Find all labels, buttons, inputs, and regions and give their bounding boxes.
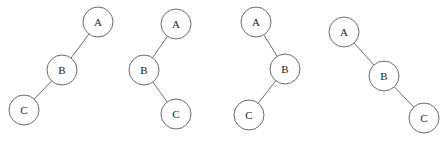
node-b: B <box>129 55 159 85</box>
node-a: A <box>161 9 191 39</box>
edge-a-b <box>354 43 374 65</box>
node-label: A <box>252 16 260 28</box>
edge-b-c <box>394 87 413 107</box>
nodes-layer: ABCABCABCABC <box>9 7 439 133</box>
edge-b-c <box>258 81 276 103</box>
edge-b-c <box>34 81 51 99</box>
node-label: C <box>20 104 27 116</box>
node-label: B <box>140 64 147 76</box>
node-label: A <box>172 18 180 30</box>
node-c: C <box>161 99 191 129</box>
node-label: B <box>58 64 65 76</box>
node-c: C <box>234 100 264 130</box>
edge-b-c <box>153 82 167 102</box>
node-c: C <box>409 103 439 133</box>
edge-a-b <box>153 36 168 57</box>
binary-trees-diagram: ABCABCABCABC <box>0 0 445 142</box>
node-b: B <box>369 61 399 91</box>
edge-a-b <box>264 35 277 56</box>
edge-a-b <box>71 34 89 58</box>
node-b: B <box>47 55 77 85</box>
tree-4: ABC <box>329 17 439 133</box>
node-a: A <box>83 7 113 37</box>
node-a: A <box>329 17 359 47</box>
node-b: B <box>270 54 300 84</box>
node-label: C <box>172 108 179 120</box>
node-label: A <box>94 16 102 28</box>
node-label: A <box>340 26 348 38</box>
node-label: C <box>420 112 427 124</box>
node-label: C <box>245 109 252 121</box>
edges-layer <box>34 34 413 107</box>
node-label: B <box>281 63 288 75</box>
tree-3: ABC <box>234 7 300 130</box>
tree-2: ABC <box>129 9 191 129</box>
node-c: C <box>9 95 39 125</box>
node-a: A <box>241 7 271 37</box>
node-label: B <box>380 70 387 82</box>
tree-1: ABC <box>9 7 113 125</box>
